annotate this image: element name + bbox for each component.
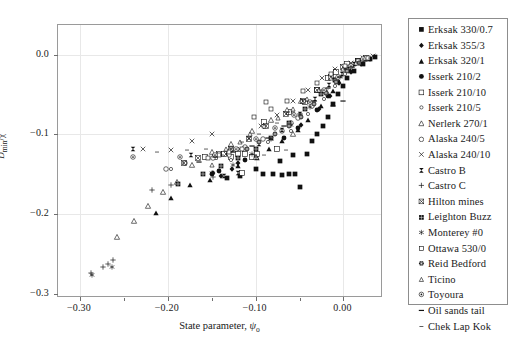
y-tick (54, 55, 58, 56)
plot-area (57, 24, 382, 297)
data-point (89, 271, 96, 278)
data-point (113, 233, 120, 240)
legend-item-label: Ottawa 530/0 (428, 243, 486, 254)
legend-item[interactable]: Erksak 355/3 (414, 38, 507, 54)
legend-item[interactable]: Monterey #0 (414, 225, 507, 241)
open-circle-icon (414, 136, 428, 143)
data-point (217, 163, 224, 170)
data-point (140, 145, 147, 152)
data-point (168, 147, 175, 154)
filled-triangle-icon (414, 58, 428, 65)
legend-item-label: Isserk 210/5 (428, 102, 481, 113)
legend-item[interactable]: Alaska 240/5 (414, 131, 507, 147)
data-point (154, 149, 161, 156)
asterisk-icon (414, 229, 428, 236)
data-point (175, 180, 182, 187)
legend-item[interactable]: Oil sands tail (414, 303, 507, 319)
open-triangle-icon (414, 120, 428, 127)
legend-item[interactable]: Reid Bedford (414, 256, 507, 272)
legend-item[interactable]: Erksak 330/0.7 (414, 22, 507, 38)
data-point (221, 172, 228, 179)
legend-item-label: Erksak 320/1 (428, 55, 485, 66)
x-tick-label: −0.20 (144, 302, 190, 313)
legend-item[interactable]: Alaska 240/10 (414, 147, 507, 163)
legend-item-label: Erksak 330/0.7 (428, 24, 493, 35)
legend-item-label: Monterey #0 (428, 227, 483, 238)
legend-item[interactable]: Castro C (414, 178, 507, 194)
x-tick (343, 297, 344, 301)
x-boxed-icon (414, 198, 428, 205)
data-point (242, 156, 249, 163)
data-point (354, 59, 361, 66)
legend-item[interactable]: Isserk 210/5 (414, 100, 507, 116)
legend-item[interactable]: Hilton mines (414, 194, 507, 210)
data-point (265, 134, 272, 141)
x-tick-minor (300, 298, 301, 301)
legend-item[interactable]: Ticino (414, 272, 507, 288)
legend-item-label: Hilton mines (428, 196, 484, 207)
legend-item[interactable]: Leighton Buzz (414, 209, 507, 225)
data-point (303, 97, 310, 104)
open-square-icon (414, 89, 428, 96)
data-point (235, 169, 242, 176)
data-point (320, 123, 327, 130)
bowtie-icon (414, 167, 428, 174)
data-point (289, 131, 296, 138)
data-point (342, 65, 349, 72)
data-point (259, 171, 266, 178)
sq-star-icon (414, 214, 428, 221)
circ-star-icon (414, 260, 428, 267)
data-point (324, 113, 331, 120)
legend-item[interactable]: Isserk 210/10 (414, 84, 507, 100)
data-point (238, 139, 245, 146)
legend-item-label: Nerlerk 270/1 (428, 118, 488, 129)
data-point (366, 54, 373, 61)
legend-item[interactable]: Toyoura (414, 287, 507, 303)
y-tick-label: −0.2 (15, 207, 49, 218)
dash-thick-icon (414, 307, 428, 314)
legend-item-label: Castro B (428, 165, 466, 176)
y-tick (54, 134, 58, 135)
legend-item-label: Isserk 210/2 (428, 71, 481, 82)
legend-item[interactable]: Isserk 210/2 (414, 69, 507, 85)
y-tick (54, 294, 58, 295)
x-tick-label: −0.10 (232, 302, 278, 313)
legend-box: Erksak 330/0.7Erksak 355/3Erksak 320/1Is… (408, 18, 508, 305)
data-point (160, 188, 167, 195)
legend-item-label: Leighton Buzz (428, 211, 491, 222)
legend-item[interactable]: Ottawa 530/0 (414, 240, 507, 256)
data-point (250, 113, 257, 120)
data-point (300, 88, 307, 95)
legend-item[interactable]: Chek Lap Kok (414, 318, 507, 334)
data-point (282, 110, 289, 117)
data-point (261, 123, 268, 130)
chart-root: State parameter, ψo Dmin/χ Erksak 330/0.… (0, 0, 518, 342)
legend-item[interactable]: Nerlerk 270/1 (414, 116, 507, 132)
data-point (317, 86, 324, 93)
legend-item[interactable]: Castro B (414, 162, 507, 178)
filled-square-icon (414, 26, 428, 33)
data-point (273, 145, 280, 152)
data-point (296, 184, 303, 191)
data-point (261, 152, 268, 159)
data-point (289, 109, 296, 116)
y-tick (54, 214, 58, 215)
x-gridline (80, 25, 81, 296)
data-point (168, 182, 175, 189)
x-axis-title-text: State parameter, (179, 320, 249, 331)
legend-item-label: Ticino (428, 274, 456, 285)
data-point (196, 158, 203, 165)
y-tick-label: −0.1 (15, 127, 49, 138)
legend-item-label: Castro C (428, 180, 466, 191)
data-point (152, 209, 159, 216)
data-point (314, 131, 321, 138)
legend-item[interactable]: Erksak 320/1 (414, 53, 507, 69)
plus-icon (414, 182, 428, 189)
circ-dot-icon (414, 291, 428, 298)
legend-item-label: Isserk 210/10 (428, 87, 486, 98)
y-axis-title-text: D (0, 152, 6, 159)
data-point (256, 131, 263, 138)
data-point (280, 123, 287, 130)
data-point (284, 97, 291, 104)
data-point (186, 181, 193, 188)
